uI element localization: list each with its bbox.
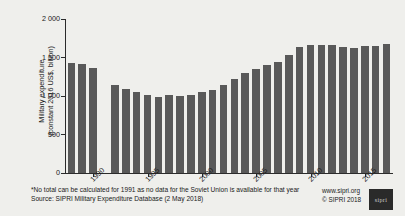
bar <box>89 68 97 173</box>
bar <box>133 92 141 173</box>
bar <box>231 79 239 173</box>
bar <box>350 48 358 173</box>
bar <box>220 85 228 173</box>
sipri-logo: sipri <box>369 189 393 210</box>
bar <box>274 62 282 173</box>
bar <box>187 95 195 173</box>
x-axis-line <box>65 173 393 174</box>
footnote-block: *No total can be calculated for 1991 as … <box>31 185 323 203</box>
bar <box>383 44 391 173</box>
bar <box>328 45 336 173</box>
chart-footer: *No total can be calculated for 1991 as … <box>0 184 405 216</box>
bar <box>68 63 76 173</box>
y-axis-tick-label: 2 000 <box>5 15 60 22</box>
bar <box>361 46 369 173</box>
bar <box>198 92 206 173</box>
bar <box>144 95 152 173</box>
chart-page: Military expenditure (constant 2016 US$,… <box>0 0 405 216</box>
bar <box>165 95 173 173</box>
footnote-text: *No total can be calculated for 1991 as … <box>31 185 323 194</box>
bar <box>263 65 271 173</box>
bar-series <box>66 19 392 173</box>
bar <box>372 46 380 173</box>
source-text: Source: SIPRI Military Expenditure Datab… <box>31 194 323 203</box>
bar <box>241 73 249 173</box>
bar <box>209 90 217 173</box>
bar-chart: Military expenditure (constant 2016 US$,… <box>0 0 405 182</box>
bar <box>122 89 130 173</box>
bar <box>339 47 347 173</box>
bar <box>318 45 326 174</box>
y-axis-tick-label: 500 <box>5 131 60 138</box>
bar <box>252 69 260 173</box>
bar <box>111 85 119 173</box>
bar <box>78 64 86 173</box>
bar <box>296 47 304 173</box>
copyright-text: © SIPRI 2018 <box>322 196 368 205</box>
y-axis-labels: 05001 0001 5002 000 <box>0 0 60 182</box>
bar <box>285 55 293 173</box>
bar <box>155 97 163 173</box>
bar <box>176 96 184 173</box>
bar <box>307 45 315 173</box>
plot-area <box>66 19 392 173</box>
y-axis-tick-label: 1 500 <box>5 54 60 61</box>
y-axis-tick-label: 0 <box>5 169 60 176</box>
website-link[interactable]: www.sipri.org <box>322 187 368 196</box>
y-axis-tick-label: 1 000 <box>5 92 60 99</box>
credit-block: www.sipri.org © SIPRI 2018 <box>322 187 368 204</box>
sipri-logo-text: sipri <box>375 197 388 203</box>
